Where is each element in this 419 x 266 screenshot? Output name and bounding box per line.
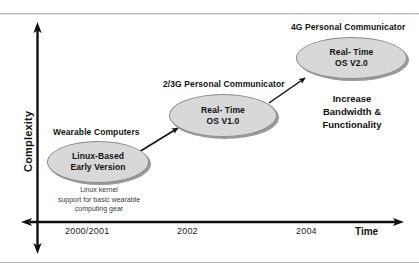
y-axis-label: Complexity [22, 111, 34, 172]
node-1-caption-line-1: Linux kernel [42, 185, 156, 195]
x-tick-2000-2001: 2000/2001 [65, 226, 109, 236]
roadmap-figure: Complexity 2000/2001 2002 2004 Time Wear… [0, 0, 419, 266]
connector-arrow-1 [139, 128, 178, 152]
node-1-header: Wearable Computers [53, 127, 140, 137]
node-1-ellipse[interactable]: Linux-Based Early Version [47, 141, 149, 183]
increase-note-line-1: Increase [297, 92, 407, 105]
increase-note-line-2: Bandwidth & [297, 105, 407, 118]
node-1-caption: Linux kernel support for basic wearable … [42, 185, 156, 214]
node-3-line-1: Real- Time [330, 47, 374, 58]
node-3-line-2: OS V2.0 [335, 58, 368, 69]
x-tick-2004: 2004 [296, 226, 317, 236]
node-1-line-2: Early Version [70, 162, 125, 173]
node-1-caption-line-2: support for basic wearable [42, 195, 156, 205]
x-axis-line [21, 218, 404, 226]
node-2-line-1: Real- Time [201, 105, 245, 116]
x-axis-label: Time [355, 226, 378, 237]
node-1-line-1: Linux-Based [72, 151, 124, 162]
increase-note-line-3: Functionality [297, 118, 407, 131]
increase-note: Increase Bandwidth & Functionality [297, 92, 407, 131]
node-1-caption-line-3: computing gear [42, 204, 156, 214]
node-2-header: 2/3G Personal Communicator [163, 79, 285, 89]
node-3-header: 4G Personal Communicator [291, 22, 405, 32]
node-2-ellipse[interactable]: Real- Time OS V1.0 [169, 94, 277, 137]
node-3-ellipse[interactable]: Real- Time OS V2.0 [296, 37, 407, 79]
x-tick-2002: 2002 [177, 226, 198, 236]
y-axis-line [33, 22, 41, 254]
node-2-line-2: OS V1.0 [207, 116, 240, 127]
